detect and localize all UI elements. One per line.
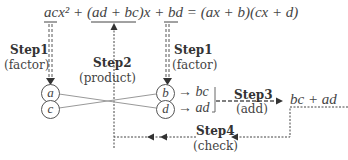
step1-left-label: Step1	[10, 43, 49, 57]
factored-form: = (ax + b)(cx + d)	[183, 4, 298, 20]
step1-right-sub: (factor)	[172, 58, 217, 72]
product-ad: → ad	[178, 100, 210, 116]
product-bc: → bc	[178, 84, 209, 100]
middle-term: ad + bc	[92, 4, 139, 20]
coef-bd: bd	[168, 4, 183, 20]
step3-sub: (add)	[236, 102, 268, 116]
equation: acx² + (ad + bc)x + bd = (ax + b)(cx + d…	[44, 4, 298, 21]
x-squared: x²	[58, 4, 69, 20]
eq-close: )x +	[139, 4, 168, 20]
step2-sub: (product)	[79, 71, 136, 85]
step1-right-label: Step1	[174, 43, 213, 57]
step4-sub: (check)	[193, 139, 238, 153]
diagram-arrows	[0, 0, 348, 160]
step4-label: Step4	[196, 124, 235, 138]
step3-label: Step3	[234, 88, 273, 102]
circle-c: c	[41, 100, 60, 119]
sum-result: bc + ad	[290, 91, 337, 108]
step2-label: Step2	[93, 56, 132, 70]
step1-left-sub: (factor)	[4, 58, 49, 72]
circle-d: d	[156, 100, 175, 119]
eq-plus: + (	[69, 4, 92, 20]
coef-ac: ac	[44, 4, 58, 20]
